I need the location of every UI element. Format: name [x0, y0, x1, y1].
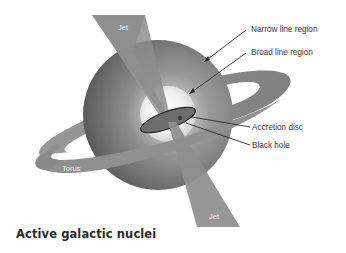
black-hole-dot [178, 116, 182, 120]
agn-diagram: Narrow line region Broad line region Acc… [0, 0, 346, 253]
label-black-hole: Black hole [252, 141, 290, 150]
label-torus: Torus [62, 164, 81, 173]
diagram-title: Active galactic nuclei [16, 227, 156, 241]
label-jet-bottom: Jet [209, 212, 220, 221]
label-broad-line-region: Broad line region [251, 48, 313, 57]
label-accretion-disc: Accretion disc [252, 123, 303, 132]
label-narrow-line-region: Narrow line region [251, 25, 318, 34]
label-jet-top: Jet [118, 23, 129, 32]
